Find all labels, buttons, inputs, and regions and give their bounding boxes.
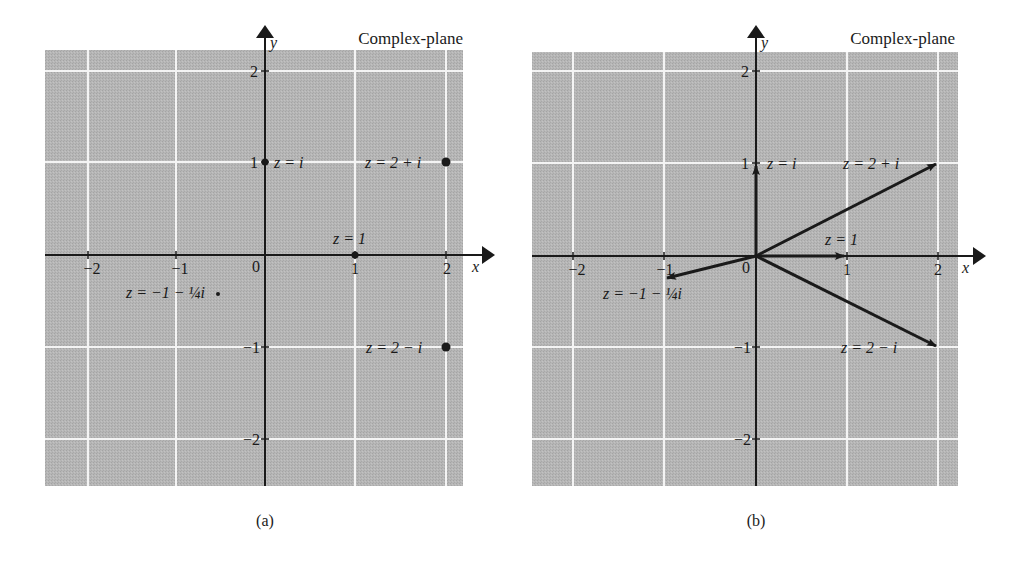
vector-label: z = −1 − ¼i bbox=[602, 285, 682, 302]
point-label: z = 1 bbox=[332, 230, 366, 247]
x-axis-label-b: x bbox=[961, 259, 969, 276]
point-label: z = −1 − ¼i bbox=[125, 284, 205, 301]
y-tick-label: −1 bbox=[734, 339, 751, 356]
x-tick-label: −2 bbox=[83, 260, 100, 277]
x-tick-label: 0 bbox=[742, 259, 750, 276]
x-tick-label: 2 bbox=[934, 261, 942, 278]
vector-label: z = 1 bbox=[824, 231, 858, 248]
point-label: z = 2 − i bbox=[365, 339, 422, 356]
panel-title-b: Complex-plane bbox=[850, 29, 955, 48]
y-tick-label: 2 bbox=[741, 63, 749, 80]
y-tick-label: 2 bbox=[250, 63, 258, 80]
vector-label: z = i bbox=[766, 155, 796, 172]
y-tick-label: −1 bbox=[243, 339, 260, 356]
figure: Complex-plane y x −2 −1 0 1 2 2 1 −1 −2 … bbox=[0, 0, 1017, 561]
caption-b: (b) bbox=[747, 512, 766, 530]
panel-b: Complex-plane y x −2 −1 0 1 2 2 1 −1 −2 … bbox=[532, 25, 986, 530]
x-axis-label-a: x bbox=[471, 258, 479, 275]
point-z-i bbox=[262, 159, 269, 166]
x-tick-label: −2 bbox=[568, 261, 585, 278]
y-tick-label: −2 bbox=[734, 431, 751, 448]
point-z-2-plus-i bbox=[442, 158, 451, 167]
x-tick-label: 1 bbox=[351, 260, 359, 277]
y-tick-label: −2 bbox=[243, 431, 260, 448]
x-tick-label: −1 bbox=[656, 261, 673, 278]
x-tick-label: 1 bbox=[843, 261, 851, 278]
point-z-neg1-minus-quarter-i bbox=[216, 292, 220, 296]
vector-label: z = 2 + i bbox=[842, 155, 899, 172]
caption-a: (a) bbox=[256, 512, 274, 530]
panel-title-a: Complex-plane bbox=[358, 29, 463, 48]
y-axis-label-b: y bbox=[759, 34, 769, 52]
y-tick-label: 1 bbox=[250, 154, 258, 171]
y-tick-label: 1 bbox=[741, 155, 749, 172]
vector-label: z = 2 − i bbox=[840, 339, 897, 356]
point-z-1 bbox=[352, 252, 359, 259]
point-label: z = i bbox=[273, 154, 303, 171]
x-axis-arrow-icon bbox=[973, 247, 986, 265]
x-tick-label: 0 bbox=[252, 258, 260, 275]
x-tick-label: −1 bbox=[171, 260, 188, 277]
panel-a: Complex-plane y x −2 −1 0 1 2 2 1 −1 −2 … bbox=[45, 25, 495, 530]
x-tick-label: 2 bbox=[443, 260, 451, 277]
point-label: z = 2 + i bbox=[364, 154, 421, 171]
y-axis-label-a: y bbox=[268, 34, 278, 52]
point-z-2-minus-i bbox=[442, 343, 451, 352]
x-axis-arrow-icon bbox=[482, 246, 495, 264]
